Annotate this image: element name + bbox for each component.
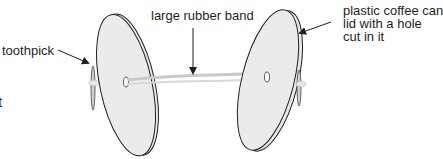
label-toothpick: toothpick [2,44,54,58]
label-fragment: t [0,95,2,109]
label-rubber-band: large rubber band [151,9,254,23]
right-lid-hole [265,72,270,82]
lid-arrow [300,22,331,33]
right-toothpick [296,70,306,106]
left-lid-hole [124,77,129,87]
label-lid-line3: cut in it [343,30,384,44]
toothpick-arrow [58,50,88,63]
